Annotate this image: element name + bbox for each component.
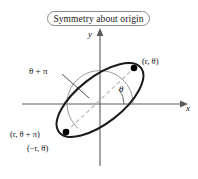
title-box: Symmetry about origin: [47, 11, 150, 26]
x-axis-label: x: [186, 104, 190, 113]
label-angle-theta-plus-pi: θ + π: [29, 67, 47, 76]
label-point-lower-left-polar: (r, θ + π): [10, 130, 40, 139]
y-axis-arrowhead-icon: [97, 28, 104, 36]
x-axis: [22, 101, 188, 108]
y-axis-label: y: [88, 30, 92, 39]
data-point-lower-left: [63, 129, 70, 136]
label-angle-theta: θ: [119, 85, 123, 94]
leader-line-theta-plus-pi: [62, 74, 89, 98]
label-point-lower-left-negative-r: (−r, θ): [27, 144, 48, 153]
polar-symmetry-figure: Symmetry about origin y x (r, θ) (r, θ +…: [0, 0, 198, 179]
page-title: Symmetry about origin: [53, 14, 143, 24]
data-point-upper-right: [131, 65, 138, 72]
label-point-upper-right: (r, θ): [142, 57, 158, 66]
y-axis: [97, 28, 104, 166]
